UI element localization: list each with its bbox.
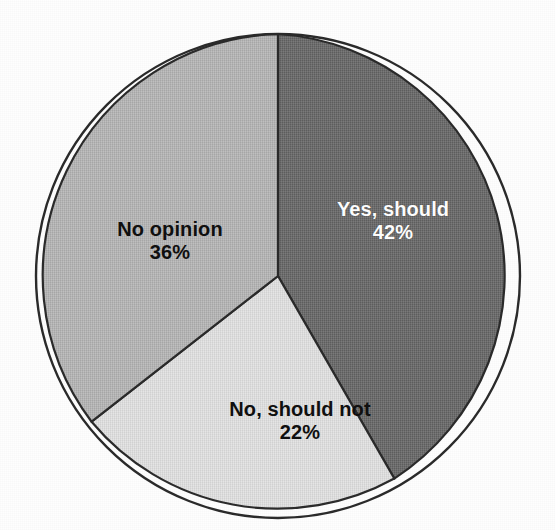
- pie-label-no-should-not-value: 22%: [229, 421, 370, 444]
- pie-label-no-opinion-value: 36%: [117, 241, 222, 264]
- pie-label-no-opinion: No opinion 36%: [117, 218, 222, 264]
- pie-label-no-should-not: No, should not 22%: [229, 398, 370, 444]
- pie-label-no-should-not-name: No, should not: [229, 398, 370, 421]
- pie-chart-figure: Yes, should 42% No, should not 22% No op…: [0, 0, 555, 530]
- pie-label-no-opinion-name: No opinion: [117, 218, 222, 241]
- pie-chart-svg: [0, 0, 555, 530]
- pie-label-yes-should-value: 42%: [337, 221, 449, 244]
- pie-label-yes-should-name: Yes, should: [337, 198, 449, 221]
- pie-label-yes-should: Yes, should 42%: [337, 198, 449, 244]
